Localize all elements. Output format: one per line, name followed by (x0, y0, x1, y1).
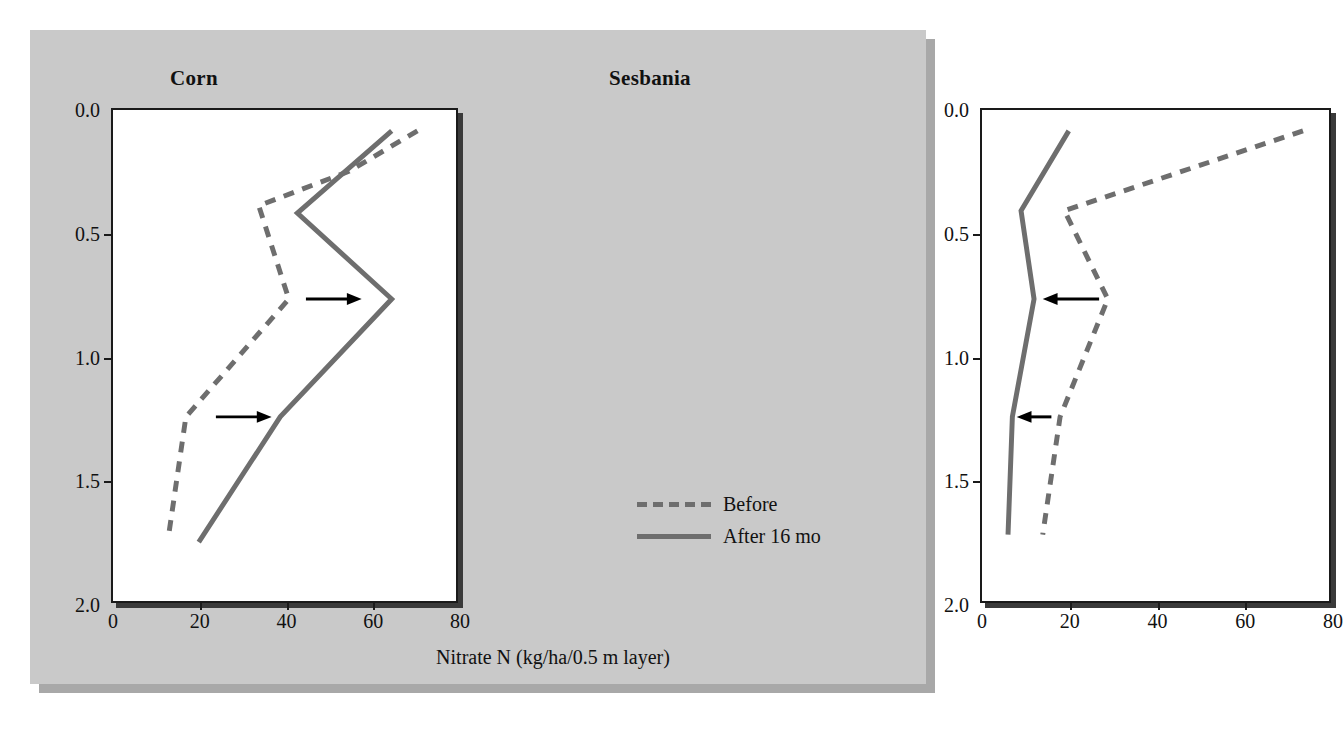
axis-title-x: Nitrate N (kg/ha/0.5 m layer) (30, 646, 926, 669)
panel-title-corn: Corn (0, 66, 418, 91)
plot-lines-corn (113, 110, 456, 601)
y-tick-label-sesbania-2: 1.0 (944, 346, 969, 369)
legend-item-after: After 16 mo (637, 520, 867, 552)
y-tick-sesbania-3 (973, 481, 982, 483)
plot-area-sesbania: 0.00.51.01.52.0020406080 (980, 108, 1331, 603)
y-tick-label-corn-2: 1.0 (75, 346, 100, 369)
y-tick-corn-1 (104, 234, 113, 236)
y-tick-label-corn-1: 0.5 (75, 222, 100, 245)
y-tick-sesbania-1 (973, 234, 982, 236)
y-tick-label-sesbania-4: 2.0 (944, 594, 969, 617)
x-tick-corn-3 (373, 601, 375, 610)
x-tick-label-corn-1: 20 (190, 610, 210, 633)
legend-item-before: Before (637, 488, 867, 520)
legend-swatch-solid-icon (637, 534, 711, 539)
axis-title-x-text: Nitrate N (kg/ha/0.5 m layer) (286, 646, 670, 668)
x-tick-sesbania-3 (1245, 601, 1247, 610)
legend: Before After 16 mo (637, 488, 867, 552)
y-tick-label-sesbania-1: 0.5 (944, 222, 969, 245)
legend-label-after: After 16 mo (723, 525, 821, 548)
y-tick-label-corn-4: 2.0 (75, 594, 100, 617)
series-line-sesbania-1 (1008, 131, 1069, 535)
chart-panel-sesbania: Sesbania 0.00.51.01.52.0020406080 (478, 30, 926, 684)
legend-label-before: Before (723, 493, 777, 516)
annotation-arrow-head-sesbania-1 (1017, 411, 1032, 423)
x-tick-label-sesbania-1: 20 (1060, 610, 1080, 633)
x-tick-sesbania-2 (1158, 601, 1160, 610)
x-tick-label-sesbania-3: 60 (1235, 610, 1255, 633)
plot-area-corn: 0.00.51.01.52.0020406080 (111, 108, 458, 603)
x-tick-sesbania-1 (1070, 601, 1072, 610)
x-tick-label-sesbania-2: 40 (1148, 610, 1168, 633)
y-tick-label-sesbania-0: 0.0 (944, 99, 969, 122)
y-tick-label-sesbania-3: 1.5 (944, 470, 969, 493)
y-tick-label-corn-3: 1.5 (75, 470, 100, 493)
x-tick-corn-1 (200, 601, 202, 610)
y-tick-corn-3 (104, 481, 113, 483)
x-tick-label-corn-2: 40 (277, 610, 297, 633)
legend-swatch-dashed-icon (637, 502, 711, 507)
y-tick-corn-2 (104, 358, 113, 360)
annotation-arrow-head-sesbania-0 (1043, 293, 1058, 305)
x-tick-label-corn-4: 80 (450, 610, 470, 633)
y-tick-label-corn-0: 0.0 (75, 99, 100, 122)
panel-title-sesbania: Sesbania (426, 66, 874, 91)
y-tick-sesbania-2 (973, 358, 982, 360)
figure-plate: Corn 0.00.51.01.52.0020406080 Sesbania 0… (30, 30, 926, 684)
x-tick-label-sesbania-4: 80 (1323, 610, 1343, 633)
series-line-corn-0 (169, 131, 418, 535)
chart-panel-corn: Corn 0.00.51.01.52.0020406080 (30, 30, 478, 684)
annotation-arrow-head-corn-1 (257, 411, 272, 423)
x-tick-label-corn-0: 0 (108, 610, 118, 633)
x-tick-label-corn-3: 60 (363, 610, 383, 633)
series-line-sesbania-0 (1043, 131, 1303, 535)
series-line-corn-1 (199, 131, 392, 542)
x-tick-label-sesbania-0: 0 (977, 610, 987, 633)
annotation-arrow-head-corn-0 (347, 293, 362, 305)
x-tick-corn-2 (287, 601, 289, 610)
plot-lines-sesbania (982, 110, 1329, 601)
